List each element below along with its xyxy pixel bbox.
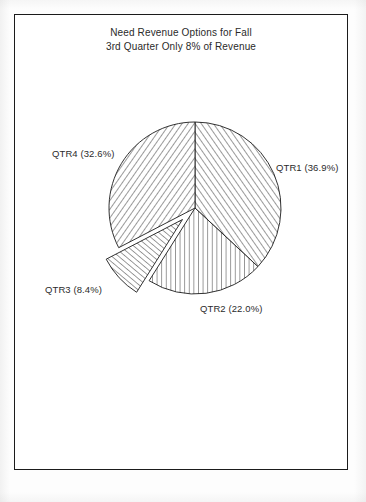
pie-label-qtr2: QTR2 (22.0%) [200, 303, 262, 315]
pie-slices [106, 122, 281, 294]
pie-chart-svg [14, 14, 348, 470]
pie-label-qtr3: QTR3 (8.4%) [45, 284, 102, 296]
pie-chart-area: QTR1 (36.9%) QTR2 (22.0%) QTR3 (8.4%) QT… [14, 14, 348, 470]
pie-label-qtr1: QTR1 (36.9%) [276, 162, 338, 174]
page-sheet: Need Revenue Options for Fall 3rd Quarte… [0, 0, 366, 502]
pie-label-qtr4: QTR4 (32.6%) [52, 148, 114, 160]
